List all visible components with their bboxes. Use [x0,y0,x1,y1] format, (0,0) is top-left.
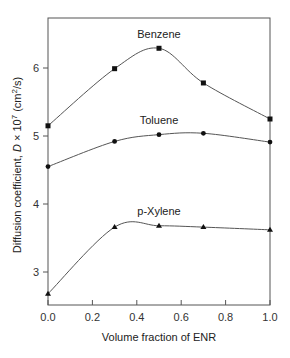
circle-marker [201,131,206,136]
square-marker [112,66,117,71]
square-marker [157,46,162,51]
square-marker [46,123,51,128]
circle-marker [157,132,162,137]
x-tick-label: 0.4 [129,311,144,323]
x-tick-label: 0.2 [85,311,100,323]
circle-marker [112,139,117,144]
series-curves [45,46,273,296]
square-marker [201,80,206,85]
series-p-xylene [45,222,273,296]
y-tick-label: 3 [33,266,39,278]
series-label: Benzene [137,28,180,40]
x-tick-label: 0.6 [174,311,189,323]
y-axis-ticks: 3456 [33,62,48,278]
series-toluene [46,131,273,169]
square-marker [268,117,273,122]
diffusion-chart: 3456 0.00.20.40.60.81.0 BenzeneToluenep-… [0,0,290,358]
y-tick-label: 5 [33,130,39,142]
y-tick-label: 6 [33,62,39,74]
series-label: Toluene [140,114,179,126]
circle-marker [268,140,273,145]
circle-marker [46,164,51,169]
x-tick-label: 0.0 [40,311,55,323]
series-label: p-Xylene [137,205,180,217]
triangle-marker [112,224,118,229]
y-axis-title: Diffusion coefficient, D × 107 (cm2/s) [10,77,23,253]
x-axis-title: Volume fraction of ENR [102,331,216,343]
x-tick-label: 0.8 [218,311,233,323]
plot-frame [48,18,270,305]
x-axis-ticks: 0.00.20.40.60.81.0 [40,300,277,323]
y-tick-label: 4 [33,198,39,210]
x-tick-label: 1.0 [262,311,277,323]
